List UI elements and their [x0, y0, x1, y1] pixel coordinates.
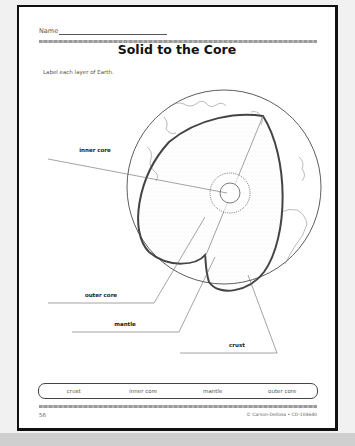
inner-core — [220, 183, 240, 203]
label-mantle: mantle — [95, 321, 155, 327]
copyright: © Carson-Dellosa • CD-104640 — [246, 412, 317, 417]
background-band — [0, 433, 355, 446]
label-crust: crust — [217, 342, 257, 348]
page-number: 56 — [39, 412, 46, 418]
word-bank-item: crust — [39, 388, 109, 394]
word-bank-item: inner core — [109, 388, 179, 394]
footer-rule — [39, 405, 317, 408]
word-bank: crust inner core mantle outer core — [38, 383, 318, 399]
earth-cross-section-diagram — [19, 7, 335, 428]
word-bank-item: outer core — [248, 388, 318, 394]
word-bank-item: mantle — [178, 388, 248, 394]
label-outer-core: outer core — [71, 292, 131, 298]
label-inner-core: inner core — [65, 147, 125, 153]
worksheet-page: Name Solid to the Core Label each layer … — [17, 5, 338, 431]
